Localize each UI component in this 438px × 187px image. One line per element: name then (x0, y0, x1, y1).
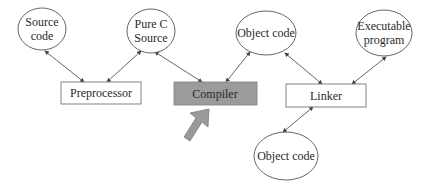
node-preprocessor: Preprocessor (61, 82, 141, 104)
edge-linker-executable (352, 57, 386, 84)
node-compiler: Compiler (174, 82, 257, 105)
node-label: Compiler (192, 87, 237, 101)
node-label: Source (25, 15, 58, 29)
node-pure-c-source: Pure C Source (127, 9, 175, 53)
node-source-code: Source code (18, 8, 66, 50)
node-label: program (364, 33, 405, 47)
compilation-diagram: Source code Pure C Source Object code Ex… (0, 0, 438, 187)
edge-preprocessor-purec (107, 51, 141, 82)
edge-purec-compiler (155, 52, 202, 82)
node-executable-program: Executable program (356, 10, 412, 56)
edge-objectcode2-linker (283, 107, 313, 132)
node-label: code (31, 29, 54, 43)
edge-source-preprocessor (45, 51, 84, 82)
node-label: Pure C (135, 17, 168, 31)
edge-compiler-objectcode (226, 52, 250, 82)
node-label: Linker (310, 89, 342, 103)
node-object-code-bottom: Object code (254, 132, 318, 180)
pointer-arrow-icon (184, 109, 209, 141)
node-label: Object code (257, 149, 315, 163)
node-label: Executable (357, 19, 410, 33)
node-object-code-top: Object code (236, 11, 296, 55)
node-label: Object code (237, 26, 295, 40)
node-label: Preprocessor (70, 86, 132, 100)
node-label: Source (134, 31, 167, 45)
node-linker: Linker (286, 84, 366, 107)
edge-objectcode-linker (285, 53, 322, 84)
